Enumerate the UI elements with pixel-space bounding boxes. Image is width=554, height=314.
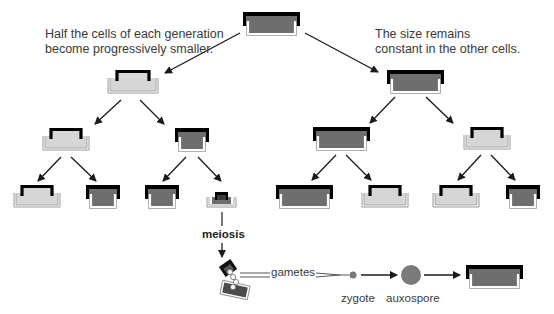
hypotheca-fill [281, 195, 328, 207]
gamete-4 [230, 284, 235, 289]
hypotheca-fill [248, 22, 295, 34]
arrow-g2rl-to-g3-5 [312, 155, 336, 180]
diatom-cell-g3-2 [86, 185, 120, 209]
label-meiosis: meiosis [202, 228, 245, 240]
diatom-cell-g2-lr [175, 128, 209, 152]
gamete-1 [227, 269, 232, 274]
diatom-cell-g3-8 [506, 185, 540, 209]
diatom-cell-g2-rr [464, 129, 510, 150]
arrow-g2rl-to-g3-6 [346, 155, 371, 180]
label-gametes: gametes [271, 266, 315, 278]
caption-right: The size remains constant in the other c… [375, 27, 520, 57]
arrow-g2ll-to-g3-1 [38, 157, 61, 181]
label-zygote: zygote [341, 292, 375, 304]
hypotheca-fill [150, 195, 174, 207]
diatom-cell-g2-rl [313, 127, 370, 151]
hypotheca-fill [392, 80, 439, 92]
diatom-cell-g3-1 [14, 187, 60, 208]
arrows-group [38, 33, 515, 275]
arrow-g1r-to-g2rl [370, 97, 395, 123]
arrow-g2ll-to-g3-2 [71, 157, 96, 181]
auxospore-icon [401, 265, 421, 285]
cell-body-top [441, 187, 471, 195]
arrow-g2lr-to-g3-4 [198, 157, 221, 181]
diatom-cell-g2-ll [43, 130, 89, 151]
cell-body-top [370, 187, 400, 195]
hypotheca-fill [511, 195, 535, 207]
cell-body-top [472, 129, 502, 137]
cell-core [217, 195, 226, 200]
label-auxospore: auxospore [386, 292, 440, 304]
arrow-g1l-to-g2lr [140, 100, 164, 124]
arrow-g1r-to-g2rr [426, 97, 453, 123]
cell-body-top [51, 130, 81, 138]
diatom-cell-g3-7 [433, 187, 479, 208]
cell-body-top [22, 187, 52, 195]
hypotheca-fill [318, 137, 365, 149]
hypotheca-fill [471, 275, 518, 287]
diatom-cell-g1-left [108, 72, 158, 94]
gamete-2 [230, 274, 235, 279]
gamete-3 [233, 279, 238, 284]
diatom-cell-root [243, 12, 300, 36]
diatom-cell-g3-4 [207, 192, 236, 207]
diatom-life-cycle-diagram: Half the cells of each generation become… [0, 0, 554, 314]
diatom-cell-g1-right [387, 70, 444, 94]
arrow-g2lr-to-g3-3 [163, 157, 186, 181]
hypotheca-fill [180, 138, 204, 150]
arrow-g2rr-to-g3-8 [491, 155, 515, 180]
arrow-g2rr-to-g3-7 [458, 155, 481, 180]
diatom-cell-restored [466, 265, 523, 289]
hypotheca-fill [91, 195, 115, 207]
diatom-cell-g3-6 [362, 187, 408, 208]
gamete-merge-bottom [316, 275, 340, 277]
arrow-g1l-to-g2ll [95, 100, 121, 124]
gamete-merge-top [316, 273, 340, 275]
caption-left: Half the cells of each generation become… [45, 27, 224, 57]
diatom-cell-g3-5 [276, 185, 333, 209]
zygote-icon [350, 272, 357, 279]
cell-body-top [117, 72, 149, 80]
arrow-root-to-g1-right [305, 33, 378, 72]
diatom-cell-g3-3 [145, 185, 179, 209]
